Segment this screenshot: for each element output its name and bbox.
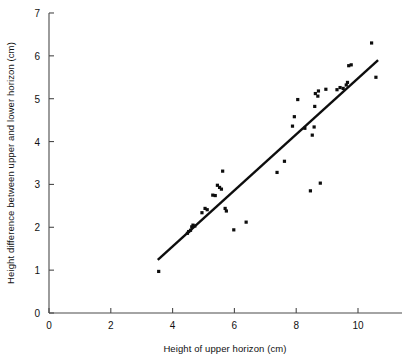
data-point-marker bbox=[221, 170, 224, 173]
data-point-marker bbox=[220, 188, 223, 191]
data-point-marker bbox=[245, 221, 248, 224]
data-point-marker bbox=[309, 189, 312, 192]
y-tick-label: 2 bbox=[34, 222, 40, 233]
y-tick-label: 3 bbox=[34, 179, 40, 190]
data-point-marker bbox=[291, 125, 294, 128]
data-point-marker bbox=[316, 95, 319, 98]
y-axis-title: Height difference between upper and lowe… bbox=[5, 42, 16, 284]
data-point-marker bbox=[283, 160, 286, 163]
data-point-marker bbox=[374, 76, 377, 79]
data-point-marker bbox=[313, 105, 316, 108]
data-point-marker bbox=[313, 125, 316, 128]
data-point-marker bbox=[350, 63, 353, 66]
data-point-marker bbox=[311, 134, 314, 137]
y-tick-label: 7 bbox=[34, 8, 40, 19]
y-tick-label: 4 bbox=[34, 137, 40, 148]
data-point-marker bbox=[335, 88, 338, 91]
scatter-plot-figure: 0246810 01234567 Height of upper horizon… bbox=[0, 0, 405, 364]
data-point-marker bbox=[157, 270, 160, 273]
y-tick-label: 1 bbox=[34, 265, 40, 276]
data-point-marker bbox=[293, 115, 296, 118]
x-tick-label: 10 bbox=[352, 320, 364, 331]
data-point-marker bbox=[232, 228, 235, 231]
data-point-marker bbox=[317, 89, 320, 92]
x-tick-label: 8 bbox=[293, 320, 299, 331]
x-axis-title: Height of upper horizon (cm) bbox=[163, 343, 286, 354]
data-point-marker bbox=[346, 81, 349, 84]
data-point-marker bbox=[338, 86, 341, 89]
x-tick-label: 6 bbox=[232, 320, 238, 331]
data-point-marker bbox=[319, 182, 322, 185]
data-point-marker bbox=[275, 171, 278, 174]
data-point-marker bbox=[206, 208, 209, 211]
data-point-marker bbox=[370, 41, 373, 44]
x-tick-label: 4 bbox=[170, 320, 176, 331]
data-point-marker bbox=[324, 88, 327, 91]
y-tick-label: 6 bbox=[34, 51, 40, 62]
data-point-marker bbox=[200, 211, 203, 214]
x-tick-label: 2 bbox=[108, 320, 114, 331]
y-tick-label: 5 bbox=[34, 94, 40, 105]
data-point-marker bbox=[296, 98, 299, 101]
figure-background bbox=[0, 0, 405, 364]
y-tick-label: 0 bbox=[34, 308, 40, 319]
x-tick-label: 0 bbox=[46, 320, 52, 331]
data-point-marker bbox=[214, 194, 217, 197]
data-point-marker bbox=[225, 209, 228, 212]
